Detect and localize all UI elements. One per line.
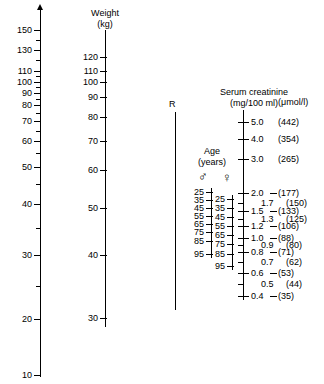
age-female-tick (227, 199, 234, 200)
creatinine-si-tick-label: (62) (286, 258, 302, 267)
creatinine-tick-label: 0.6 (251, 269, 264, 278)
weight-axis-tick-label: 80 (68, 113, 98, 122)
left-axis-minor-tick (36, 153, 41, 154)
weight-axis-tick-label: 60 (68, 166, 98, 175)
age-female-tick (227, 235, 234, 236)
left-axis-minor-tick (36, 286, 41, 287)
left-axis-tick (34, 167, 41, 168)
creatinine-tick (238, 296, 249, 297)
weight-axis-tick-label: 30 (68, 314, 98, 323)
age-female-tick-label: 95 (204, 262, 225, 271)
creatinine-tick-label: 1.2 (251, 222, 264, 231)
left-axis-tick-label: 130 (2, 46, 32, 55)
creatinine-tick-label: 5.0 (251, 118, 264, 127)
creatinine-si-unit-label: (μmol/l) (278, 98, 308, 107)
creatinine-tick (238, 273, 249, 274)
left-axis-line (40, 10, 41, 377)
weight-axis-title-line1: Weight (70, 8, 140, 19)
creatinine-tick (238, 238, 249, 239)
creatinine-si-tick-label: (35) (278, 292, 294, 301)
left-axis-tick-label: 60 (2, 137, 32, 146)
creatinine-leader-line (270, 226, 277, 227)
left-axis-tick-label: 70 (2, 117, 32, 126)
creatinine-si-tick-label: (53) (278, 269, 294, 278)
left-axis-tick-label: 150 (2, 26, 32, 35)
left-axis-minor-tick (36, 87, 41, 88)
left-axis-minor-tick (36, 76, 41, 77)
creatinine-leader-line (270, 252, 277, 253)
creatinine-tick (238, 122, 249, 123)
weight-axis-title: Weight (kg) (70, 8, 140, 30)
weight-axis-tick-label: 90 (68, 93, 98, 102)
creatinine-tick (238, 226, 249, 227)
age-axis-title: Age (years) (188, 146, 236, 168)
weight-axis-tick (100, 208, 107, 209)
left-axis-tick-label: 10 (2, 371, 32, 380)
nomogram-figure: 150130110100908070605040302010 Weight (k… (0, 0, 324, 384)
creatinine-leader-line (270, 296, 277, 297)
left-axis-tick-label: 100 (2, 78, 32, 87)
left-axis-tick-label: 20 (2, 315, 32, 324)
left-axis-tick (34, 30, 41, 31)
weight-axis-title-line2: (kg) (70, 19, 140, 30)
creatinine-leader-line (270, 193, 277, 194)
left-axis-tick-label: 110 (2, 67, 32, 76)
creatinine-tick-label: 0.4 (251, 292, 264, 301)
male-symbol-icon: ♂ (198, 170, 208, 183)
creatinine-si-tick-label: (106) (278, 222, 299, 231)
age-axis-title-line1: Age (188, 146, 236, 157)
creatinine-tick (238, 252, 249, 253)
age-female-tick (227, 244, 234, 245)
left-axis-tick (34, 204, 41, 205)
weight-axis-tick (100, 318, 107, 319)
left-axis-minor-tick (36, 228, 41, 229)
weight-axis-tick (100, 141, 107, 142)
weight-axis-tick-label: 40 (68, 251, 98, 260)
left-axis-tick (34, 319, 41, 320)
creatinine-tick-label: 4.0 (251, 135, 264, 144)
age-female-axis-line (232, 195, 233, 270)
weight-axis-tick (100, 82, 107, 83)
weight-axis-tick (100, 97, 107, 98)
weight-axis-tick-label: 70 (68, 137, 98, 146)
left-axis-tick-label: 40 (2, 200, 32, 209)
age-axis-title-line2: (years) (188, 157, 236, 168)
weight-axis-tick-label: 120 (68, 53, 98, 62)
left-axis-tick-label: 80 (2, 101, 32, 110)
weight-axis-line (105, 30, 106, 327)
left-axis-tick-label: 50 (2, 163, 32, 172)
creatinine-tick (238, 211, 249, 212)
left-axis-tick (34, 121, 41, 122)
left-axis-minor-tick (36, 184, 41, 185)
age-male-tick (206, 192, 213, 193)
weight-axis-tick (100, 255, 107, 256)
left-axis-tick (34, 93, 41, 94)
creatinine-minor-tick (238, 284, 244, 285)
creatinine-si-tick-label: (71) (278, 248, 294, 257)
female-symbol-icon: ♀ (222, 171, 232, 184)
left-axis-tick (34, 255, 41, 256)
left-axis-tick (34, 50, 41, 51)
creatinine-si-tick-label: (177) (278, 189, 299, 198)
left-axis-minor-tick (36, 60, 41, 61)
age-female-tick-label: 85 (204, 250, 225, 259)
age-female-tick (227, 266, 234, 267)
weight-axis-tick-label: 100 (68, 78, 98, 87)
left-axis-minor-tick (36, 131, 41, 132)
age-male-tick-label: 85 (183, 237, 204, 246)
creatinine-tick (238, 159, 249, 160)
reference-line-label: R (169, 100, 176, 109)
left-axis-minor-tick (36, 99, 41, 100)
creatinine-minor-tick (238, 203, 244, 204)
weight-axis-tick-label: 110 (68, 67, 98, 76)
age-male-tick-label: 95 (183, 250, 204, 259)
age-female-tick (227, 208, 234, 209)
creatinine-si-tick-label: (442) (278, 118, 299, 127)
weight-axis-tick-label: 50 (68, 204, 98, 213)
creatinine-tick (238, 139, 249, 140)
left-axis-tick (34, 82, 41, 83)
creatinine-tick-label: 2.0 (251, 189, 264, 198)
creatinine-minor-tick (238, 245, 244, 246)
creatinine-si-tick-label: (44) (286, 280, 302, 289)
left-axis-tick (34, 105, 41, 106)
